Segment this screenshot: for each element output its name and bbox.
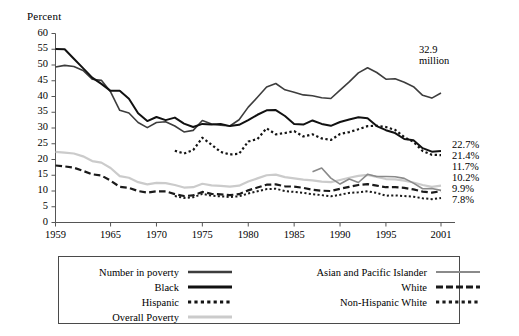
series-end-label: 21.4% [452,150,512,161]
y-tick-label: 45 [20,74,48,85]
series-end-label: 7.8% [452,194,512,205]
y-tick-label: 50 [20,58,48,69]
x-tick-label: 1959 [31,229,81,240]
x-tick-label: 1965 [86,229,136,240]
series-line [56,49,442,152]
legend-swatch-solid [187,281,233,293]
series-end-label: 9.9% [452,183,512,194]
legend-item-label: White [267,282,427,293]
x-tick-label: 1970 [131,229,181,240]
series-end-label: 11.7% [452,161,512,172]
annotation-line-2: million [419,55,449,66]
y-tick-label: 35 [20,105,48,116]
x-tick-label: 1995 [361,229,411,240]
x-tick-label: 1975 [177,229,227,240]
legend-item[interactable]: White [267,280,481,294]
legend-item[interactable]: Black [71,280,233,294]
y-tick-label: 5 [20,200,48,211]
annotation-line-1: 32.9 [419,44,449,55]
x-tick-label: 1980 [223,229,273,240]
legend-swatch-dotted [187,296,233,308]
series-line [175,126,441,155]
chart-annotation: 32.9million [419,44,449,66]
series-line [313,168,442,190]
legend-item[interactable]: Asian and Pacific Islander [267,265,481,279]
y-tick-label: 20 [20,153,48,164]
y-tick-label: 15 [20,168,48,179]
legend-item[interactable]: Non-Hispanic White [267,295,481,309]
legend-item[interactable]: Overall Poverty [71,310,233,324]
legend-item-label: Number in poverty [71,267,179,278]
y-tick-label: 25 [20,137,48,148]
poverty-chart: Percent 05101520253035404550556019591965… [0,0,519,336]
x-tick-label: 1985 [269,229,319,240]
y-tick-label: 30 [20,121,48,132]
legend-item[interactable]: Hispanic [71,295,233,309]
series-end-label: 22.7% [452,139,512,150]
y-tick-label: 10 [20,184,48,195]
legend-item[interactable]: Number in poverty [71,265,233,279]
legend-swatch-dashed [435,281,481,293]
series-line [175,189,441,199]
y-tick-label: 40 [20,90,48,101]
legend-item-label: Asian and Pacific Islander [267,267,427,278]
legend-item-label: Black [71,282,179,293]
legend-swatch-solid [435,266,481,278]
chart-legend: Number in povertyBlackHispanicOverall Po… [58,256,460,324]
y-tick-label: 55 [20,42,48,53]
legend-item-label: Non-Hispanic White [267,297,427,308]
series-end-label: 10.2% [452,172,512,183]
x-tick-label: 2001 [416,229,466,240]
legend-swatch-solid [187,266,233,278]
series-line [56,65,442,132]
legend-swatch-solid [187,311,233,323]
legend-item-label: Hispanic [71,297,179,308]
legend-swatch-dotted [435,296,481,308]
legend-item-label: Overall Poverty [71,312,179,323]
y-tick-label: 60 [20,27,48,38]
y-tick-label: 0 [20,216,48,227]
x-tick-label: 1990 [315,229,365,240]
